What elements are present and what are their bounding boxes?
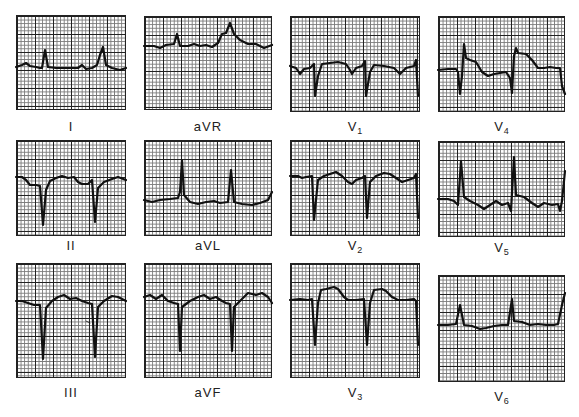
lead-v2-panel: [290, 140, 420, 236]
lead-v1-panel: [290, 16, 420, 112]
lead-ii-panel: [16, 140, 126, 236]
lead-v6-label: V6: [438, 389, 565, 406]
lead-iii-panel: [16, 263, 126, 378]
lead-v5-label: V5: [438, 240, 565, 257]
lead-v6-trace: [438, 275, 565, 382]
lead-v3-trace: [290, 263, 420, 378]
lead-avf-trace: [144, 263, 272, 378]
lead-avl-panel: [144, 140, 272, 236]
lead-v3-panel: [290, 263, 420, 378]
lead-avr-label: aVR: [144, 119, 272, 134]
lead-i-label: I: [16, 119, 126, 134]
lead-iii-trace: [16, 263, 126, 378]
lead-v2-trace: [290, 140, 420, 236]
lead-v5-trace: [438, 141, 565, 237]
lead-v4-panel: [438, 16, 565, 112]
lead-iii-label: III: [16, 385, 126, 400]
lead-v4-label: V4: [438, 119, 565, 136]
lead-avf-label: aVF: [144, 385, 272, 400]
lead-avl-trace: [144, 140, 272, 236]
lead-avl-label: aVL: [144, 238, 272, 253]
lead-ii-trace: [16, 140, 126, 236]
lead-avf-panel: [144, 263, 272, 378]
lead-i-panel: [16, 15, 126, 110]
lead-i-trace: [16, 15, 126, 110]
lead-v1-trace: [290, 16, 420, 112]
lead-v5-panel: [438, 141, 565, 237]
lead-v4-trace: [438, 16, 565, 112]
lead-ii-label: II: [16, 238, 126, 253]
lead-v2-label: V2: [290, 238, 420, 255]
lead-v1-label: V1: [290, 119, 420, 136]
lead-v6-panel: [438, 275, 565, 382]
lead-avr-panel: [144, 16, 272, 110]
lead-v3-label: V3: [290, 385, 420, 402]
lead-avr-trace: [144, 16, 272, 110]
